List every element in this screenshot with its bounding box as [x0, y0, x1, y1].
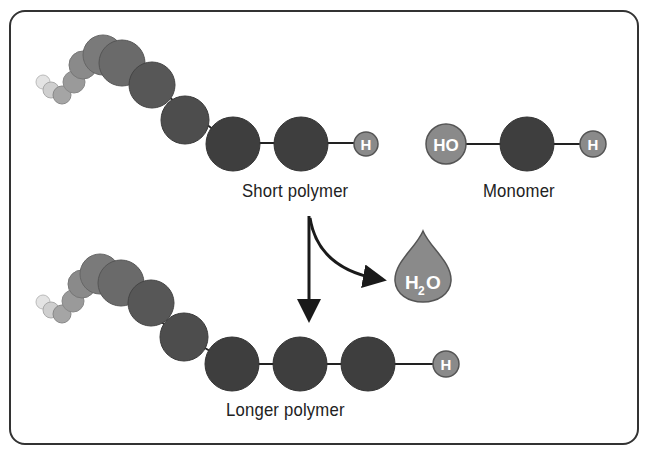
short-polymer-label: Short polymer — [242, 180, 348, 202]
water-o-label: O — [426, 272, 441, 293]
short-polymer-chain: H — [36, 35, 378, 171]
reaction-arrows — [309, 216, 378, 314]
hydrogen-atom-label: H — [588, 136, 599, 153]
monomer-molecule: HO H — [426, 117, 606, 171]
hydroxyl-label: HO — [433, 136, 459, 155]
water-h-label: H — [405, 272, 419, 293]
longer-polymer-label: Longer polymer — [226, 399, 345, 421]
polymer-diagram: H HO H H 2 O H — [0, 0, 646, 455]
monomer-label: Monomer — [483, 180, 555, 202]
hydrogen-atom-label: H — [441, 356, 452, 373]
water-subscript-label: 2 — [418, 284, 425, 298]
hydrogen-atom-label: H — [361, 136, 372, 153]
water-drop-icon: H 2 O — [395, 231, 451, 302]
